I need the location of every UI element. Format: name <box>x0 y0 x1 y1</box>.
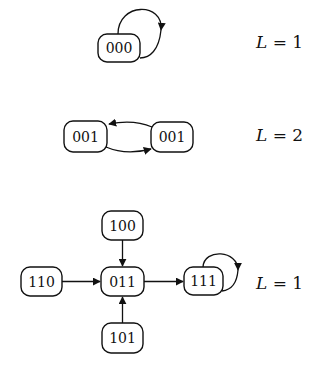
node-001-right: 001 <box>151 122 193 152</box>
self-loop-edge-000-tail <box>140 30 161 58</box>
node-000: 000 <box>98 34 140 62</box>
node-100: 100 <box>102 211 143 240</box>
node-label: 000 <box>106 40 133 56</box>
node-111: 111 <box>184 267 223 295</box>
cycle-length-label: L = 2 <box>255 125 303 145</box>
cycle-length-label: L = 1 <box>255 32 303 52</box>
self-loop-edge-000 <box>118 9 161 34</box>
group-cycle-L2: 001 001 L = 2 <box>64 121 303 152</box>
node-label: 001 <box>159 129 186 145</box>
node-011: 011 <box>101 267 144 296</box>
node-label: 111 <box>190 273 217 289</box>
node-001-left: 001 <box>64 121 107 152</box>
node-label: 001 <box>72 129 99 145</box>
node-label: 011 <box>109 274 136 290</box>
node-label: 101 <box>109 330 136 346</box>
node-101: 101 <box>102 323 143 353</box>
self-loop-edge-111-tail <box>222 270 238 291</box>
node-label: 110 <box>28 274 55 290</box>
state-transition-diagram: 000 L = 1 001 001 L = 2 100 1 <box>0 0 321 368</box>
cycle-length-label: L = 1 <box>255 273 303 293</box>
edge-001b-to-001a <box>109 122 152 127</box>
group-cycle-L1-top: 000 L = 1 <box>98 9 303 62</box>
group-cycle-L1-bottom: 100 110 011 111 101 L = 1 <box>21 211 303 353</box>
node-110: 110 <box>21 267 62 296</box>
node-label: 100 <box>109 218 136 234</box>
edge-001a-to-001b <box>106 147 151 152</box>
